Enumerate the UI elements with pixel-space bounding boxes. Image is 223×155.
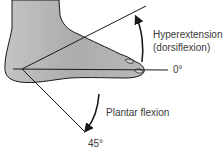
dorsiflexion-label: (dorsiflexion) <box>153 42 210 54</box>
plantar-flexion-label: Plantar flexion <box>106 107 169 119</box>
forty-five-degree-label: 45° <box>88 138 103 150</box>
dorsiflexion-arrow-icon <box>137 19 143 62</box>
plantar-flexion-arrow-icon <box>87 94 99 129</box>
hyperextension-label: Hyperextension <box>153 29 222 41</box>
zero-degree-label: 0° <box>173 64 183 76</box>
ankle-motion-diagram <box>0 0 223 155</box>
